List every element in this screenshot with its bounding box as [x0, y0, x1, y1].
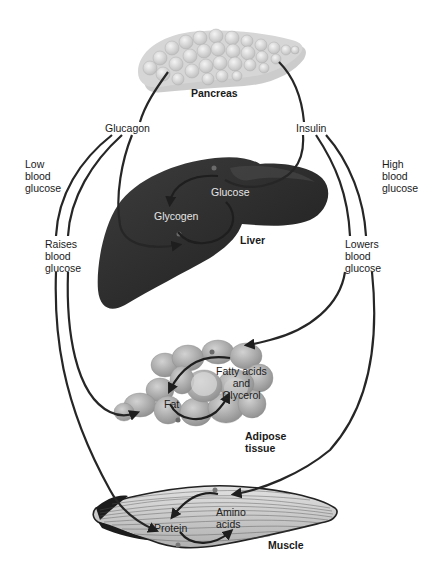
lowers-blood-glucose-label: Lowers blood glucose: [345, 238, 381, 274]
fat-label: Fat: [164, 398, 179, 410]
protein-label: Protein: [154, 522, 187, 534]
glucagon-left-outer: [56, 135, 112, 236]
lowers-adipose-line: [248, 272, 345, 345]
pancreas-shape: [138, 29, 306, 92]
insulin-label: Insulin: [296, 122, 326, 134]
adipose-tissue-label: Adipose tissue: [245, 430, 286, 454]
amino-acids-label: Amino acids: [216, 506, 246, 530]
glucagon-label: Glucagon: [105, 122, 150, 134]
low-blood-glucose-label: Low blood glucose: [25, 158, 61, 194]
glucose-label: Glucose: [211, 186, 250, 198]
raises-blood-glucose-label: Raises blood glucose: [45, 238, 81, 274]
muscle-label: Muscle: [268, 539, 304, 551]
high-blood-glucose-label: High blood glucose: [382, 158, 418, 194]
glycogen-label: Glycogen: [154, 210, 198, 222]
pancreas-label: Pancreas: [191, 87, 238, 99]
insulin-right-outer: [326, 135, 366, 236]
fatty-acids-glycerol-label: Fatty acids and Glycerol: [216, 365, 267, 401]
liver-shape: [98, 157, 329, 308]
liver-label: Liver: [240, 234, 265, 246]
